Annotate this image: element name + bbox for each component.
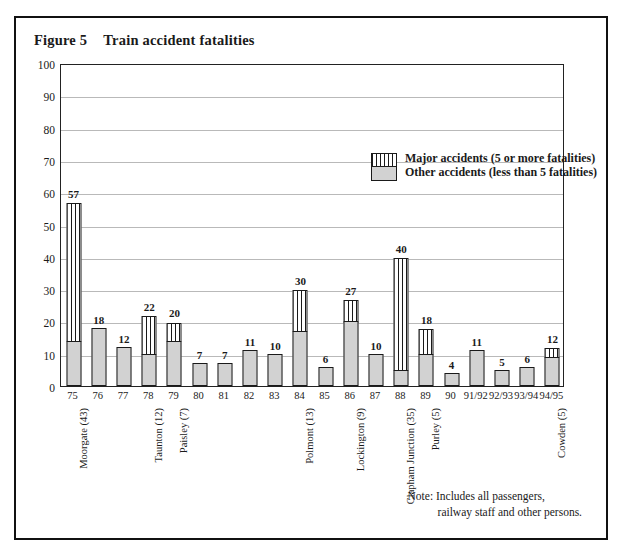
bar-slot: 20 [162, 65, 187, 386]
bar-segment-other-accidents [520, 367, 535, 386]
legend-labels: Major accidents (5 or more fatalities) O… [405, 151, 597, 179]
bar-segment-other-accidents [142, 354, 157, 386]
bars-layer: 5718122220771110306271040184115612 [61, 65, 563, 386]
bar-segment-other-accidents [242, 350, 257, 386]
bar-slot: 30 [288, 65, 313, 386]
x-axis-tick-label: 89 [420, 390, 431, 401]
y-axis-tick-label: 70 [44, 156, 56, 168]
bar-segment-other-accidents [419, 354, 434, 386]
x-axis-tick-label: 92/93 [489, 390, 513, 401]
figure-number: Figure 5 [34, 32, 87, 48]
y-axis-tick-label: 20 [44, 317, 56, 329]
bar-value-label: 7 [197, 349, 203, 361]
bar-segment-other-accidents [66, 341, 81, 386]
bar-stack[interactable] [343, 300, 358, 386]
bar-stack[interactable] [293, 290, 308, 386]
bar-stack[interactable] [192, 363, 207, 386]
bar-slot: 18 [86, 65, 111, 386]
x-axis-tick-label: 88 [395, 390, 406, 401]
chart-note-line-1: Note: Includes all passengers, [408, 488, 582, 504]
x-axis-tick-label: 83 [269, 390, 280, 401]
bar-slot: 40 [389, 65, 414, 386]
bar-stack[interactable] [520, 367, 535, 386]
bar-slot: 12 [540, 65, 565, 386]
bar-value-label: 10 [270, 340, 281, 352]
legend-label-other-accidents: Other accidents (less than 5 fatalities) [405, 165, 597, 179]
bar-value-label: 4 [449, 359, 455, 371]
y-axis-tick-label: 50 [44, 221, 56, 233]
legend-label-major-accidents: Major accidents (5 or more fatalities) [405, 151, 597, 165]
y-axis-tick-label: 90 [44, 91, 56, 103]
bar-slot: 7 [212, 65, 237, 386]
y-axis-tick-label: 60 [44, 188, 56, 200]
bar-slot: 18 [414, 65, 439, 386]
bar-stack[interactable] [66, 203, 81, 386]
bar-value-label: 27 [345, 285, 356, 297]
bar-segment-major-accidents [394, 258, 409, 371]
chart-plot-area: 0102030405060708090100 57181222207711103… [60, 64, 564, 387]
bar-slot: 5 [489, 65, 514, 386]
x-axis-tick-label: 81 [219, 390, 230, 401]
chart-note-line-2: railway staff and other persons. [408, 504, 582, 520]
bar-stack[interactable] [545, 348, 560, 386]
bar-segment-other-accidents [217, 363, 232, 386]
bar-value-label: 10 [370, 340, 381, 352]
bar-stack[interactable] [142, 316, 157, 386]
x-axis-tick-label: 86 [345, 390, 356, 401]
legend-swatch-other-accidents [371, 167, 397, 181]
bar-segment-other-accidents [91, 328, 106, 386]
bar-segment-other-accidents [444, 373, 459, 386]
bar-value-label: 12 [547, 333, 558, 345]
bar-slot: 27 [338, 65, 363, 386]
bar-slot: 6 [313, 65, 338, 386]
bar-stack[interactable] [167, 323, 182, 386]
x-axis-tick-label: 77 [118, 390, 129, 401]
x-axis-tick-label: 80 [193, 390, 204, 401]
bar-stack[interactable] [268, 354, 283, 386]
bar-segment-other-accidents [343, 321, 358, 386]
bar-stack[interactable] [91, 328, 106, 386]
y-axis-tick-label: 10 [44, 350, 56, 362]
bar-value-label: 57 [68, 188, 79, 200]
x-axis-tick-label: 85 [319, 390, 330, 401]
bar-value-label: 40 [396, 243, 407, 255]
bar-segment-other-accidents [494, 370, 509, 386]
x-axis-tick-label: 91/92 [464, 390, 488, 401]
y-axis-tick-label: 100 [38, 59, 55, 71]
legend-swatch-major-accidents [371, 153, 397, 167]
bar-segment-major-accidents [293, 290, 308, 332]
bar-stack[interactable] [394, 258, 409, 386]
bar-segment-other-accidents [368, 354, 383, 386]
y-axis-tick-label: 0 [49, 382, 55, 394]
bar-value-label: 6 [524, 353, 530, 365]
bar-value-label: 18 [421, 314, 432, 326]
x-axis-tick-label: 78 [143, 390, 154, 401]
bar-value-label: 30 [295, 275, 306, 287]
bar-slot: 11 [237, 65, 262, 386]
scan-artifact-text [0, 0, 622, 12]
x-axis-tick-label: 84 [294, 390, 305, 401]
bar-stack[interactable] [469, 350, 484, 386]
bar-stack[interactable] [116, 347, 131, 386]
bar-segment-major-accidents [343, 300, 358, 323]
x-axis-tick-label: 79 [168, 390, 179, 401]
bar-segment-other-accidents [293, 331, 308, 386]
bar-stack[interactable] [419, 329, 434, 386]
bar-segment-other-accidents [268, 354, 283, 386]
bar-value-label: 11 [245, 336, 255, 348]
bar-stack[interactable] [242, 350, 257, 386]
bar-stack[interactable] [494, 370, 509, 386]
x-axis: 7576777879808182838485868788899091/9292/… [60, 390, 564, 406]
bar-value-label: 22 [144, 301, 155, 313]
accident-annotation-label: Taunton (12) [153, 408, 164, 462]
x-axis-tick-label: 82 [244, 390, 255, 401]
bar-stack[interactable] [217, 363, 232, 386]
accident-annotation-label: Lockington (9) [355, 408, 366, 471]
bar-segment-major-accidents [142, 316, 157, 355]
bar-segment-other-accidents [318, 367, 333, 386]
accident-annotation-label: Cowden (5) [556, 408, 567, 458]
bar-stack[interactable] [368, 354, 383, 386]
bar-value-label: 7 [222, 349, 228, 361]
bar-stack[interactable] [318, 367, 333, 386]
bar-stack[interactable] [444, 373, 459, 386]
